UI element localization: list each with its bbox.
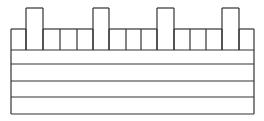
block-diagram [0, 0, 264, 121]
